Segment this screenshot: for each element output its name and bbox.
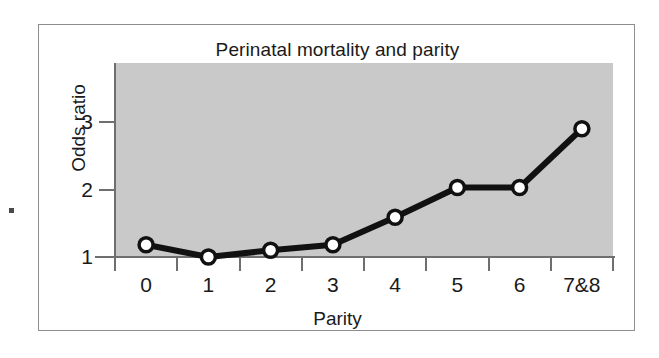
data-point-marker	[575, 122, 589, 136]
data-series-line	[39, 25, 636, 332]
chart-figure-frame: Perinatal mortality and parity Odds rati…	[38, 24, 635, 331]
data-point-marker	[326, 238, 340, 252]
data-point-marker	[264, 243, 278, 257]
data-point-marker	[139, 238, 153, 252]
data-point-marker	[201, 250, 215, 264]
data-point-marker	[450, 181, 464, 195]
scan-speck-artifact	[9, 208, 14, 213]
data-point-marker	[513, 181, 527, 195]
data-point-marker	[388, 210, 402, 224]
